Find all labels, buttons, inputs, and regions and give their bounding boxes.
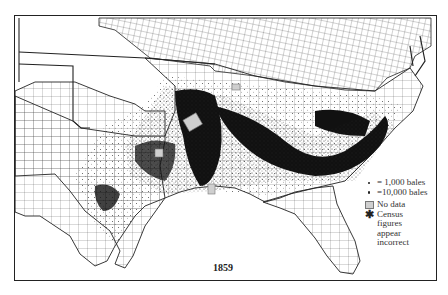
large-dot-icon bbox=[364, 188, 374, 198]
asterisk-icon: ✱ bbox=[364, 210, 374, 220]
florida bbox=[263, 186, 360, 274]
legend-label-census: Census figures appear incorrect bbox=[377, 210, 409, 248]
legend-row-large-dot: =10,000 bales bbox=[364, 188, 436, 198]
map-year-label: 1859 bbox=[213, 262, 233, 273]
legend-label-large: =10,000 bales bbox=[377, 188, 428, 198]
map-legend: = 1,000 bales =10,000 bales No data ✱ Ce… bbox=[364, 178, 436, 248]
legend-row-census: ✱ Census figures appear incorrect bbox=[364, 210, 436, 248]
small-dot-icon bbox=[364, 178, 374, 188]
